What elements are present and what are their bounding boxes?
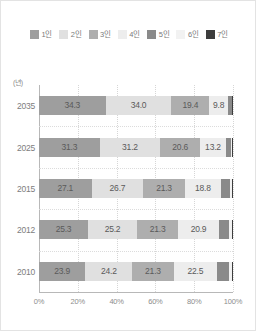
bar-value-label: 22.5 bbox=[188, 267, 204, 276]
bar-value-label: 21.3 bbox=[150, 225, 166, 234]
bar-segment-4인[interactable]: 13.2 bbox=[200, 138, 226, 157]
x-axis-tick-label: 20% bbox=[71, 297, 85, 306]
bar-segment-4인[interactable]: 18.8 bbox=[185, 179, 221, 198]
legend-item-4인[interactable]: 4인 bbox=[118, 30, 140, 39]
bar-segment-1인[interactable]: 23.9 bbox=[39, 262, 85, 281]
bar-value-label: 31.3 bbox=[61, 143, 77, 152]
y-axis-tick-label: 2025 bbox=[1, 143, 35, 153]
bar-value-label: 34.0 bbox=[131, 101, 147, 110]
bar-row[interactable]: 25.325.221.320.9 bbox=[39, 220, 233, 239]
bar-segment-5인[interactable] bbox=[217, 262, 229, 281]
bar-segment-5인[interactable] bbox=[219, 220, 230, 239]
bar-segment-3인[interactable]: 19.4 bbox=[171, 96, 209, 115]
bar-value-label: 21.3 bbox=[156, 184, 172, 193]
legend-item-7인[interactable]: 7인 bbox=[206, 30, 228, 39]
bar-segment-2인[interactable]: 31.2 bbox=[100, 138, 161, 157]
bar-segment-4인[interactable]: 22.5 bbox=[174, 262, 218, 281]
bar-value-label: 18.8 bbox=[195, 184, 211, 193]
bar-segment-3인[interactable]: 20.6 bbox=[160, 138, 200, 157]
bar-segment-7인[interactable] bbox=[232, 262, 233, 281]
bar-segment-3인[interactable]: 21.3 bbox=[132, 262, 173, 281]
row-separator bbox=[39, 251, 233, 253]
y-axis-tick-label: 2010 bbox=[1, 267, 35, 277]
row-separator bbox=[39, 209, 233, 211]
legend-item-2인[interactable]: 2인 bbox=[59, 30, 81, 39]
bar-value-label: 20.9 bbox=[191, 225, 207, 234]
bar-segment-7인[interactable] bbox=[232, 138, 233, 157]
bar-value-label: 24.2 bbox=[101, 267, 117, 276]
legend-item-label: 4인 bbox=[129, 30, 140, 39]
x-axis-tick-label: 0% bbox=[34, 297, 44, 306]
bar-segment-2인[interactable]: 26.7 bbox=[92, 179, 144, 198]
plot-area: 34.334.019.49.831.331.220.613.227.126.72… bbox=[39, 85, 233, 292]
legend-item-5인[interactable]: 5인 bbox=[147, 30, 169, 39]
legend-swatch-icon bbox=[206, 30, 215, 39]
bar-segment-2인[interactable]: 34.0 bbox=[106, 96, 172, 115]
bar-value-label: 19.4 bbox=[182, 101, 198, 110]
row-separator bbox=[39, 168, 233, 170]
bar-value-label: 25.2 bbox=[105, 225, 121, 234]
bar-row[interactable]: 34.334.019.49.8 bbox=[39, 96, 233, 115]
bar-segment-1인[interactable]: 34.3 bbox=[39, 96, 106, 115]
bar-value-label: 23.9 bbox=[54, 267, 70, 276]
chart-legend: 1인2인3인4인5인6인7인 bbox=[1, 23, 256, 45]
y-axis-tick-label: 2035 bbox=[1, 101, 35, 111]
legend-item-6인[interactable]: 6인 bbox=[176, 30, 198, 39]
legend-item-label: 5인 bbox=[159, 30, 170, 39]
row-separator bbox=[39, 126, 233, 128]
chart-figure: 1인2인3인4인5인6인7인 (년) 34.334.019.49.831.331… bbox=[0, 0, 256, 331]
legend-swatch-icon bbox=[176, 30, 185, 39]
legend-item-label: 1인 bbox=[42, 30, 53, 39]
bar-segment-7인[interactable] bbox=[232, 96, 233, 115]
y-axis-tick-label: 2012 bbox=[1, 225, 35, 235]
bar-segment-7인[interactable] bbox=[232, 179, 233, 198]
bar-segment-1인[interactable]: 25.3 bbox=[39, 220, 88, 239]
legend-item-label: 6인 bbox=[188, 30, 199, 39]
legend-swatch-icon bbox=[30, 30, 39, 39]
bar-segment-2인[interactable]: 24.2 bbox=[85, 262, 132, 281]
legend-swatch-icon bbox=[147, 30, 156, 39]
bar-segment-7인[interactable] bbox=[232, 220, 233, 239]
x-gridline bbox=[233, 85, 235, 292]
bar-segment-3인[interactable]: 21.3 bbox=[143, 179, 184, 198]
y-axis-tick-label: 2015 bbox=[1, 184, 35, 194]
legend-item-label: 2인 bbox=[71, 30, 82, 39]
x-axis-line bbox=[39, 292, 233, 293]
legend-item-1인[interactable]: 1인 bbox=[30, 30, 52, 39]
legend-item-label: 7인 bbox=[217, 30, 228, 39]
bar-value-label: 9.8 bbox=[213, 101, 224, 110]
x-axis-tick-label: 60% bbox=[148, 297, 162, 306]
legend-swatch-icon bbox=[118, 30, 127, 39]
bar-row[interactable]: 23.924.221.322.5 bbox=[39, 262, 233, 281]
y-axis-unit-label: (년) bbox=[13, 77, 23, 87]
legend-swatch-icon bbox=[59, 30, 68, 39]
bar-segment-3인[interactable]: 21.3 bbox=[137, 220, 178, 239]
legend-item-3인[interactable]: 3인 bbox=[89, 30, 111, 39]
bar-segment-5인[interactable] bbox=[221, 179, 230, 198]
bar-value-label: 26.7 bbox=[110, 184, 126, 193]
bar-value-label: 21.3 bbox=[145, 267, 161, 276]
bar-value-label: 27.1 bbox=[57, 184, 73, 193]
bar-row[interactable]: 27.126.721.318.8 bbox=[39, 179, 233, 198]
bar-segment-1인[interactable]: 31.3 bbox=[39, 138, 100, 157]
x-axis-tick-label: 100% bbox=[224, 297, 242, 306]
bar-row[interactable]: 31.331.220.613.2 bbox=[39, 138, 233, 157]
legend-item-label: 3인 bbox=[100, 30, 111, 39]
bar-segment-2인[interactable]: 25.2 bbox=[88, 220, 137, 239]
bar-segment-1인[interactable]: 27.1 bbox=[39, 179, 92, 198]
x-axis-tick-label: 40% bbox=[109, 297, 123, 306]
bar-value-label: 31.2 bbox=[122, 143, 138, 152]
bar-value-label: 20.6 bbox=[172, 143, 188, 152]
x-axis-tick-label: 80% bbox=[187, 297, 201, 306]
bar-value-label: 13.2 bbox=[205, 143, 221, 152]
bar-segment-4인[interactable]: 9.8 bbox=[209, 96, 228, 115]
bar-segment-4인[interactable]: 20.9 bbox=[178, 220, 219, 239]
bar-value-label: 34.3 bbox=[64, 101, 80, 110]
legend-swatch-icon bbox=[89, 30, 98, 39]
bar-value-label: 25.3 bbox=[56, 225, 72, 234]
